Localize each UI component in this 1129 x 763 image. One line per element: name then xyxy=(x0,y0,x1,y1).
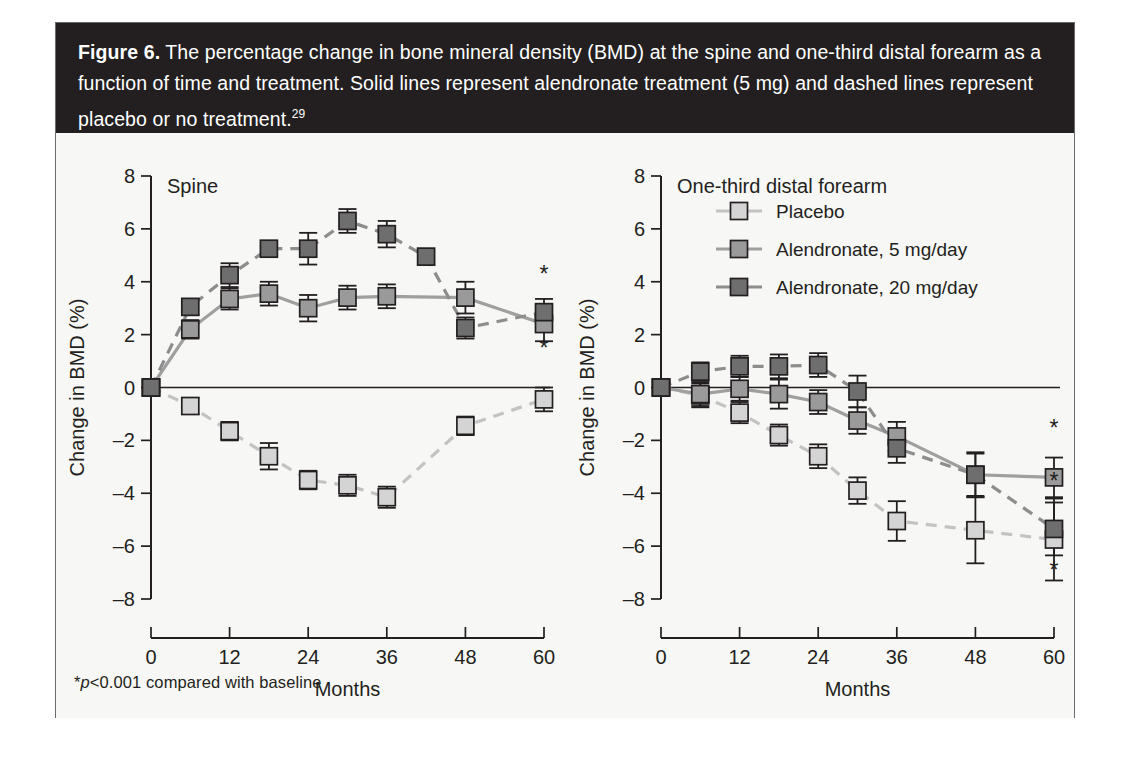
figure-caption-text: Figure 6. The percentage change in bone … xyxy=(78,37,1052,135)
data-point-marker xyxy=(653,379,670,396)
legend-marker-sample xyxy=(731,279,748,296)
y-tick-label: –8 xyxy=(623,588,645,610)
footnote-p-italic: p xyxy=(81,673,90,691)
data-point-marker xyxy=(731,404,748,421)
data-point-marker xyxy=(260,448,277,465)
x-tick-label: 24 xyxy=(297,646,319,668)
legend-marker-sample xyxy=(731,203,748,220)
y-tick-label: 0 xyxy=(124,377,135,399)
data-point-marker xyxy=(888,513,905,530)
legend-label: Placebo xyxy=(776,201,845,222)
data-point-marker xyxy=(731,358,748,375)
data-point-marker xyxy=(339,289,356,306)
data-point-marker xyxy=(810,448,827,465)
data-point-marker xyxy=(888,440,905,457)
data-point-marker xyxy=(221,267,238,284)
x-tick-label: 60 xyxy=(533,646,555,668)
data-point-marker xyxy=(810,357,827,374)
y-tick-label: –4 xyxy=(623,482,645,504)
x-tick-label: 12 xyxy=(728,646,750,668)
x-tick-label: 36 xyxy=(376,646,398,668)
data-point-marker xyxy=(300,472,317,489)
data-point-marker xyxy=(692,363,709,380)
legend-item: Alendronate, 5 mg/day xyxy=(716,239,968,260)
data-point-marker xyxy=(770,358,787,375)
footnote-rest: <0.001 compared with baseline xyxy=(90,673,322,691)
x-tick-label: 36 xyxy=(886,646,908,668)
data-point-marker xyxy=(143,379,160,396)
x-tick-label: 48 xyxy=(454,646,476,668)
data-point-marker xyxy=(260,240,277,257)
data-point-marker xyxy=(221,423,238,440)
legend-label: Alendronate, 20 mg/day xyxy=(776,277,978,298)
forearm-chart-svg: 86420–2–4–6–8Change in BMD (%)0122436486… xyxy=(566,133,1076,718)
data-point-marker xyxy=(457,320,474,337)
x-tick-label: 0 xyxy=(655,646,666,668)
legend-item: Placebo xyxy=(716,201,845,222)
spine-chart-svg: 86420–2–4–6–8Change in BMD (%)0122436486… xyxy=(56,133,566,718)
x-axis-title: Months xyxy=(825,678,891,700)
x-tick-label: 0 xyxy=(145,646,156,668)
data-point-marker xyxy=(457,289,474,306)
data-point-marker xyxy=(967,522,984,539)
y-tick-label: 6 xyxy=(124,218,135,240)
data-point-marker xyxy=(1046,520,1063,537)
figure-caption-body: The percentage change in bone mineral de… xyxy=(78,41,1041,130)
y-tick-label: –8 xyxy=(113,588,135,610)
data-point-marker xyxy=(339,477,356,494)
panel-title: Spine xyxy=(167,175,218,197)
y-tick-label: –2 xyxy=(113,429,135,451)
significance-asterisk: * xyxy=(1050,468,1059,494)
y-tick-label: 6 xyxy=(634,218,645,240)
figure-caption-bar: Figure 6. The percentage change in bone … xyxy=(56,23,1074,133)
y-axis-title: Change in BMD (%) xyxy=(66,299,88,477)
legend-item: Alendronate, 20 mg/day xyxy=(716,277,978,298)
data-point-marker xyxy=(849,482,866,499)
y-tick-label: 2 xyxy=(124,324,135,346)
x-tick-label: 12 xyxy=(218,646,240,668)
chart-forearm: 86420–2–4–6–8Change in BMD (%)0122436486… xyxy=(566,133,1076,718)
data-point-marker xyxy=(182,298,199,315)
figure-page: Figure 6. The percentage change in bone … xyxy=(0,0,1129,763)
significance-asterisk: * xyxy=(1050,415,1059,441)
data-point-marker xyxy=(300,240,317,257)
data-point-marker xyxy=(810,394,827,411)
panel-title: One-third distal forearm xyxy=(677,175,887,197)
y-tick-label: –2 xyxy=(623,429,645,451)
y-tick-label: 2 xyxy=(634,324,645,346)
data-point-marker xyxy=(967,466,984,483)
legend-marker-sample xyxy=(731,241,748,258)
data-point-marker xyxy=(378,226,395,243)
legend-label: Alendronate, 5 mg/day xyxy=(776,239,968,260)
footnote: *p<0.001 compared with baseline xyxy=(74,673,322,692)
plot-area: 86420–2–4–6–8Change in BMD (%)0122436486… xyxy=(56,133,1074,718)
data-point-marker xyxy=(378,288,395,305)
data-point-marker xyxy=(221,290,238,307)
x-tick-label: 48 xyxy=(964,646,986,668)
data-point-marker xyxy=(418,248,435,265)
significance-asterisk: * xyxy=(540,335,549,361)
y-axis-title: Change in BMD (%) xyxy=(576,299,598,477)
figure-number: Figure 6. xyxy=(78,41,160,63)
x-tick-label: 60 xyxy=(1043,646,1065,668)
y-tick-label: –4 xyxy=(113,482,135,504)
data-point-marker xyxy=(182,321,199,338)
data-point-marker xyxy=(378,489,395,506)
y-tick-label: 4 xyxy=(634,271,645,293)
significance-asterisk: * xyxy=(540,261,549,287)
data-point-marker xyxy=(260,285,277,302)
y-tick-label: –6 xyxy=(623,535,645,557)
y-tick-label: 8 xyxy=(124,165,135,187)
x-axis-title: Months xyxy=(315,678,381,700)
significance-asterisk: * xyxy=(1050,557,1059,583)
y-tick-label: 8 xyxy=(634,165,645,187)
y-tick-label: 4 xyxy=(124,271,135,293)
x-tick-label: 24 xyxy=(807,646,829,668)
data-point-marker xyxy=(770,386,787,403)
data-point-marker xyxy=(770,427,787,444)
y-tick-label: –6 xyxy=(113,535,135,557)
data-point-marker xyxy=(536,304,553,321)
data-point-marker xyxy=(182,398,199,415)
figure-reference-marker: 29 xyxy=(292,107,306,121)
data-point-marker xyxy=(849,412,866,429)
